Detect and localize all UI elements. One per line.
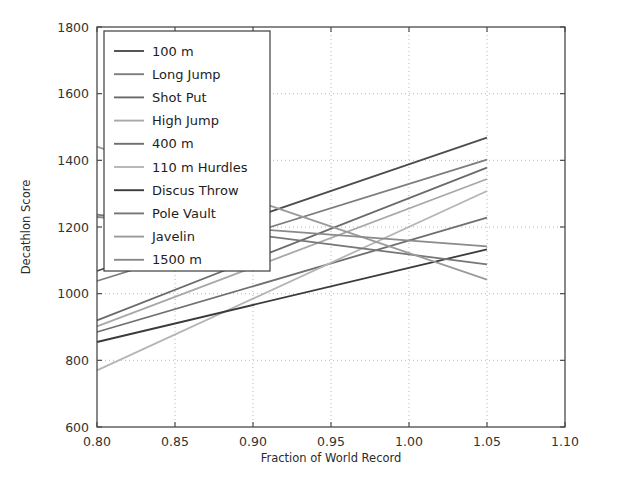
legend-label-9[interactable]: Javelin <box>151 229 195 244</box>
chart-plot-area: 0.800.850.900.951.001.051.10 60080010001… <box>0 0 628 477</box>
chart-legend[interactable]: 100 mLong JumpShot PutHigh Jump400 m110 … <box>104 31 270 271</box>
y-tick-label: 1800 <box>57 20 89 35</box>
x-tick-label: 1.05 <box>473 434 501 449</box>
chart-background <box>0 0 628 477</box>
y-tick-label: 800 <box>65 353 89 368</box>
x-tick-label: 1.00 <box>395 434 423 449</box>
x-tick-label: 0.95 <box>317 434 345 449</box>
y-tick-label: 1600 <box>57 86 89 101</box>
legend-label-10[interactable]: 1500 m <box>152 252 202 267</box>
legend-label-7[interactable]: Discus Throw <box>152 183 239 198</box>
figure-canvas: 0.800.850.900.951.001.051.10 60080010001… <box>0 0 628 477</box>
legend-label-8[interactable]: Pole Vault <box>152 206 216 221</box>
x-tick-label: 0.85 <box>161 434 189 449</box>
decathlon-score-line-chart: 0.800.850.900.951.001.051.10 60080010001… <box>0 0 628 477</box>
legend-label-1[interactable]: 100 m <box>152 44 194 59</box>
y-tick-label: 600 <box>65 420 89 435</box>
x-tick-label: 0.80 <box>83 434 111 449</box>
y-tick-label: 1200 <box>57 220 89 235</box>
legend-label-4[interactable]: High Jump <box>152 113 219 128</box>
x-tick-label: 0.90 <box>239 434 267 449</box>
y-tick-label: 1000 <box>57 286 89 301</box>
legend-label-6[interactable]: 110 m Hurdles <box>152 160 248 175</box>
legend-label-5[interactable]: 400 m <box>152 136 194 151</box>
y-tick-label: 1400 <box>57 153 89 168</box>
legend-label-2[interactable]: Long Jump <box>152 67 221 82</box>
y-axis-title: Decathlon Score <box>19 180 33 274</box>
x-axis-title: Fraction of World Record <box>261 451 402 465</box>
x-tick-label: 1.10 <box>551 434 579 449</box>
legend-label-3[interactable]: Shot Put <box>152 90 207 105</box>
